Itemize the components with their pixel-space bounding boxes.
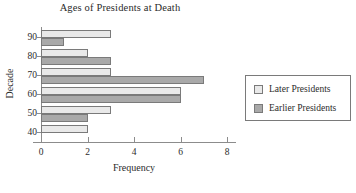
x-tick-label: 6	[171, 147, 191, 157]
x-tick-mark	[181, 137, 182, 143]
y-tick-label: 60	[18, 89, 37, 99]
x-tick-mark	[227, 137, 228, 143]
bar-60-earlier	[41, 95, 181, 103]
bar-40-later	[41, 125, 88, 133]
y-tick-label: 90	[18, 32, 37, 42]
x-axis-title: Frequency	[41, 162, 227, 173]
x-tick-label: 2	[78, 147, 98, 157]
bar-50-later	[41, 106, 111, 114]
legend-item-label: Earlier Presidents	[269, 103, 336, 113]
bar-chart: Ages of Presidents at Death 908070605040…	[0, 0, 356, 193]
y-tick-70: 70	[18, 70, 37, 80]
x-tick-label: 4	[124, 147, 144, 157]
legend-item-earlier-presidents: Earlier Presidents	[254, 103, 336, 113]
y-tick-mark	[37, 94, 41, 95]
x-tick-mark	[134, 137, 135, 143]
bar-60-later	[41, 87, 181, 95]
y-tick-50: 50	[18, 108, 37, 118]
y-tick-90: 90	[18, 32, 37, 42]
x-tick-mark	[41, 137, 42, 143]
bar-50-earlier	[41, 114, 88, 122]
bar-80-later	[41, 49, 88, 57]
bar-70-later	[41, 68, 111, 76]
y-tick-label: 80	[18, 51, 37, 61]
y-tick-40: 40	[18, 127, 37, 137]
bar-70-earlier	[41, 76, 204, 84]
y-tick-mark	[37, 132, 41, 133]
y-tick-mark	[37, 56, 41, 57]
y-axis-title: Decade	[4, 59, 15, 109]
y-tick-label: 70	[18, 70, 37, 80]
x-tick-mark	[88, 137, 89, 143]
y-tick-mark	[37, 37, 41, 38]
y-tick-label: 40	[18, 127, 37, 137]
bar-90-earlier	[41, 38, 64, 46]
bar-90-later	[41, 30, 111, 38]
bar-80-earlier	[41, 57, 111, 65]
plot-area	[41, 28, 227, 142]
x-tick-label: 8	[217, 147, 237, 157]
chart-title: Ages of Presidents at Death	[0, 2, 240, 13]
y-tick-mark	[37, 75, 41, 76]
legend-item-later-presidents: Later Presidents	[254, 84, 330, 94]
y-tick-60: 60	[18, 89, 37, 99]
y-tick-label: 50	[18, 108, 37, 118]
legend-swatch-icon	[254, 85, 263, 94]
y-tick-80: 80	[18, 51, 37, 61]
legend-swatch-icon	[254, 104, 263, 113]
legend-item-label: Later Presidents	[269, 84, 330, 94]
y-tick-mark	[37, 113, 41, 114]
chart-legend: Later Presidents Earlier Presidents	[245, 75, 351, 121]
x-tick-label: 0	[31, 147, 51, 157]
